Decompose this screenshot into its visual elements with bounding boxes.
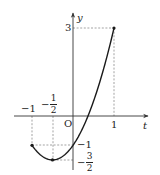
- y-tick-label-neg-three-halves: 3 2: [86, 152, 93, 173]
- x-tick-label-neg-half-sign: −: [41, 100, 49, 110]
- y-axis-label: y: [77, 13, 83, 23]
- y-tick-label-3: 3: [65, 23, 71, 33]
- data-point: [112, 27, 115, 30]
- x-axis-label: t: [143, 121, 147, 131]
- x-tick-label-1: 1: [111, 120, 117, 130]
- frac-numerator: 3: [87, 152, 93, 161]
- x-tick-label-neg1: −1: [21, 104, 36, 114]
- y-tick-label-neg1: −1: [77, 140, 92, 150]
- origin-label: O: [64, 119, 72, 129]
- data-point: [51, 158, 54, 161]
- frac-denominator: 2: [87, 164, 93, 173]
- frac-denominator: 2: [51, 106, 57, 115]
- data-point: [30, 144, 33, 147]
- y-tick-label-neg-three-halves-sign: −: [77, 158, 85, 168]
- x-tick-label-neg-half: 1 2: [50, 94, 57, 115]
- frac-numerator: 1: [51, 94, 57, 103]
